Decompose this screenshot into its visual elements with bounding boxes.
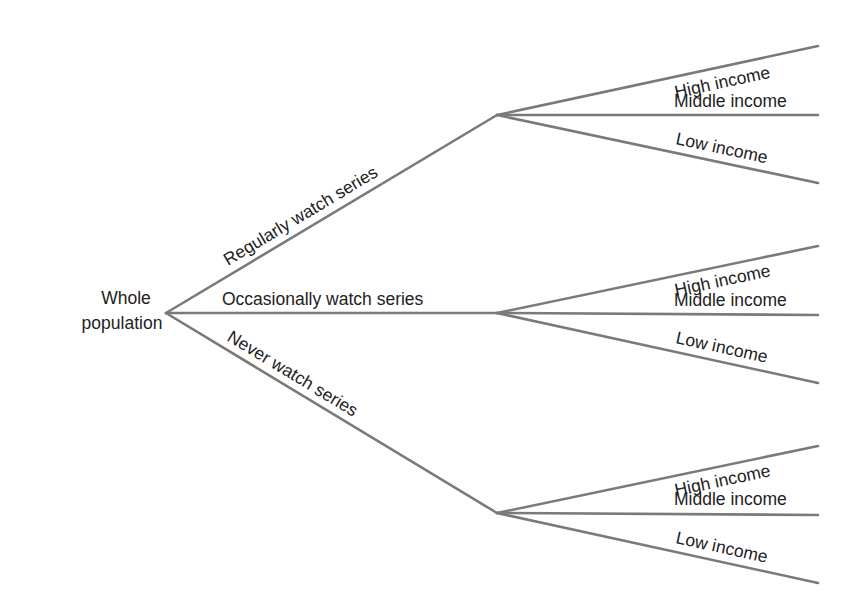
branch-label-occasionally: Occasionally watch series [222,289,424,309]
leaf-never-middle [497,513,818,515]
group-occasionally: High income Middle income Low income [497,246,818,383]
root-node: Whole population [82,288,163,333]
root-label-line1: Whole [101,288,151,308]
branch-regularly [166,115,497,313]
leaf-occasionally-middle [497,313,818,315]
leaf-occasionally-low [497,313,818,383]
branch-label-regularly: Regularly watch series [220,162,382,270]
tree-diagram: Whole population Regularly watch series … [0,0,859,606]
leaf-regularly-low [497,115,818,183]
root-label-line2: population [82,313,163,333]
leaf-never-low [497,513,818,583]
level1-branches [166,115,497,513]
leaf-label-regularly-middle: Middle income [674,91,787,111]
branch-never [166,313,497,513]
group-regularly: High income Middle income Low income [497,46,818,183]
group-never: High income Middle income Low income [497,446,818,583]
branch-label-never: Never watch series [224,326,362,420]
leaf-label-occasionally-middle: Middle income [674,290,787,310]
leaf-label-never-middle: Middle income [674,489,787,509]
